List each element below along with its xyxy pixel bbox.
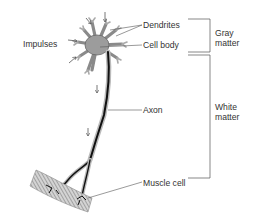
label-white-matter-line2: matter [215,112,239,122]
label-white-matter-line1: White [215,102,237,112]
white-matter-bracket [188,55,210,178]
label-cell-body: Cell body [143,40,179,50]
axon [52,52,109,196]
label-dendrites: Dendrites [143,20,180,30]
label-gray-matter-line1: Gray [215,28,234,38]
gray-matter-bracket [188,19,210,52]
label-impulses: Impulses [23,39,57,49]
label-gray-matter-line2: matter [215,38,239,48]
cell-body [85,35,109,55]
label-axon: Axon [143,105,163,115]
label-muscle-cell: Muscle cell [143,178,186,188]
